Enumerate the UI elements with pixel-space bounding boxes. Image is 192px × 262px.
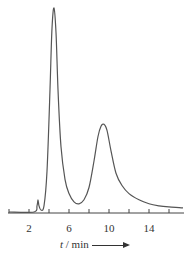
chromatogram-trace xyxy=(9,8,183,212)
x-tick-label: 6 xyxy=(66,222,72,234)
x-axis-label: t / min xyxy=(60,238,128,250)
x-tick-label: 10 xyxy=(104,222,115,234)
x-axis-unit: / min xyxy=(63,238,89,250)
x-tick-label: 2 xyxy=(26,222,32,234)
x-tick-label: 14 xyxy=(144,222,155,234)
arrow-right-icon xyxy=(92,245,128,246)
